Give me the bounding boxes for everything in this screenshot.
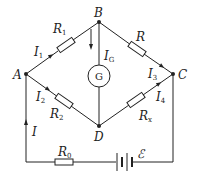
label-i1: I1 (33, 45, 43, 60)
label-r: R (135, 30, 145, 44)
node-label-b: B (93, 6, 103, 20)
node-c-dot (171, 72, 175, 76)
wheatstone-bridge-diagram: A B C D G R1 R R2 Rx R0 I1 I2 IG I3 I4 I… (0, 0, 197, 184)
node-label-d: D (93, 130, 104, 144)
node-a-dot (24, 72, 28, 76)
node-d-dot (97, 124, 101, 128)
label-r1: R1 (52, 22, 67, 37)
galvanometer-label: G (95, 71, 103, 82)
label-r0: R0 (57, 145, 72, 160)
label-i4: I4 (155, 90, 166, 105)
arrow-i (24, 119, 28, 125)
node-label-a: A (12, 68, 22, 82)
arrow-ig-head (89, 44, 93, 50)
label-i3: I3 (147, 67, 157, 82)
battery (117, 153, 132, 171)
label-ig: IG (103, 49, 115, 64)
node-b-dot (97, 20, 101, 24)
label-emf: ℰ (137, 147, 146, 161)
resistor-rx (127, 92, 145, 107)
label-i: I (31, 125, 37, 139)
label-r2: R2 (49, 107, 64, 122)
node-label-c: C (178, 68, 187, 82)
label-i2: I2 (35, 90, 45, 105)
resistor-r1 (57, 37, 75, 52)
label-rx: Rx (138, 109, 152, 124)
